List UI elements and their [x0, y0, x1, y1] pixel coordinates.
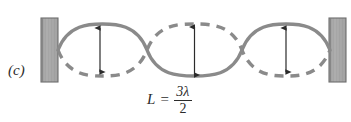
panel-label: (c) — [8, 62, 25, 79]
length-formula: L = 3λ 2 — [0, 84, 351, 115]
standing-wave-figure: (c) L = 3λ 2 — [0, 0, 351, 122]
formula-numerator: 3λ — [174, 85, 191, 100]
formula-inline: L = 3λ 2 — [147, 84, 192, 115]
formula-fraction: 3λ 2 — [174, 85, 192, 116]
formula-denominator: 2 — [177, 101, 188, 116]
formula-variable: L — [147, 92, 155, 107]
formula-equals-sign: = — [159, 92, 169, 107]
left-wall — [41, 18, 58, 82]
